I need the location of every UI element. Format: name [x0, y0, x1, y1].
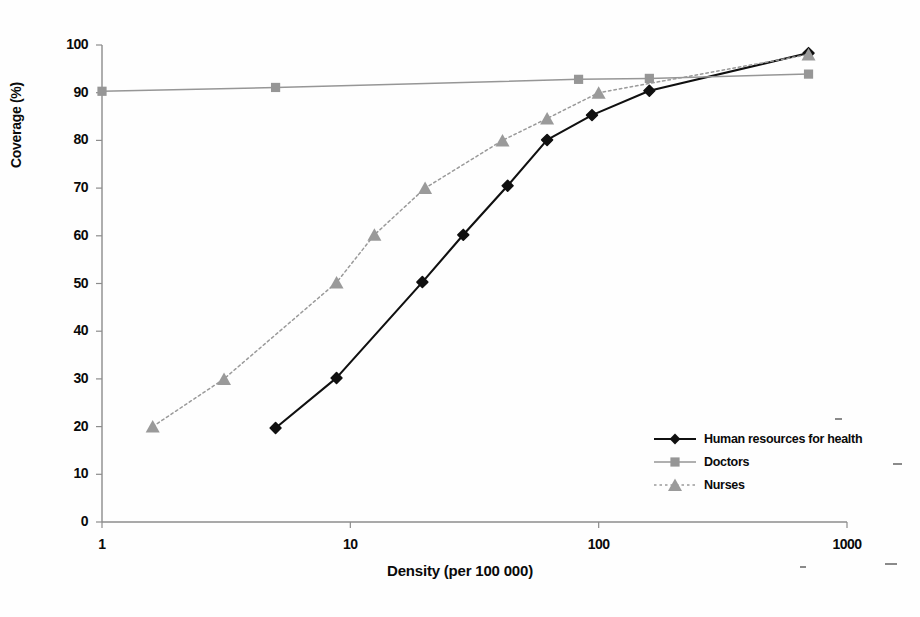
scan-artifact-2 [893, 463, 902, 465]
legend-key-icon [652, 476, 698, 494]
data-point-1-1 [271, 83, 280, 92]
legend-item-0[interactable]: Human resources for health [652, 427, 888, 450]
chart-legend: Human resources for healthDoctorsNurses [652, 427, 888, 496]
data-point-0-7 [644, 85, 655, 96]
series-line-2 [153, 55, 809, 427]
legend-item-1[interactable]: Doctors [652, 450, 888, 473]
scan-artifact-3 [800, 566, 806, 568]
data-point-0-6 [587, 110, 598, 121]
legend-label: Doctors [698, 455, 749, 469]
data-point-2-5 [496, 134, 510, 147]
plot-area [0, 0, 920, 617]
scan-artifact-1 [835, 418, 842, 420]
data-point-1-3 [645, 74, 654, 83]
legend-item-2[interactable]: Nurses [652, 473, 888, 496]
data-point-2-2 [330, 276, 344, 289]
data-point-2-0 [146, 420, 160, 433]
data-point-2-3 [367, 228, 381, 241]
legend-label: Human resources for health [698, 432, 862, 446]
series-line-1 [102, 74, 809, 91]
legend-key-icon [652, 430, 698, 448]
legend-key-icon [652, 453, 698, 471]
data-point-1-0 [97, 87, 106, 96]
series-line-0 [276, 53, 809, 428]
data-point-1-2 [574, 75, 583, 84]
data-point-2-1 [217, 372, 231, 385]
scan-artifact-4 [885, 563, 897, 565]
data-point-1-4 [804, 69, 813, 78]
data-point-2-4 [418, 182, 432, 195]
data-point-2-6 [540, 112, 554, 125]
legend-label: Nurses [698, 478, 745, 492]
chart-figure: Coverage (%) Density (per 100 000) 01020… [0, 0, 920, 617]
